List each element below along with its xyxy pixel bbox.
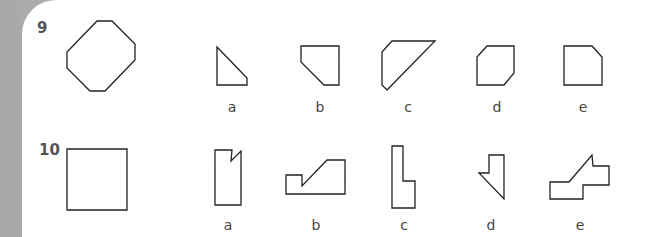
q10-option-b-shape[interactable] [286, 160, 345, 194]
q10-option-a-shape[interactable] [215, 150, 241, 205]
q9-option-d-label[interactable]: d [487, 99, 507, 115]
q9-option-e-shape[interactable] [564, 46, 602, 85]
q10-option-a-label[interactable]: a [218, 217, 238, 233]
q9-option-c-label[interactable]: c [398, 99, 418, 115]
q9-option-a-label[interactable]: a [222, 99, 242, 115]
q10-option-c-shape[interactable] [392, 146, 415, 208]
q9-option-b-shape[interactable] [301, 46, 339, 85]
q9-option-e-label[interactable]: e [573, 99, 593, 115]
q10-option-d-shape[interactable] [479, 155, 504, 199]
q10-option-d-label[interactable]: d [481, 217, 501, 233]
q10-option-e-label[interactable]: e [570, 217, 590, 233]
q9-option-c-shape[interactable] [382, 41, 435, 90]
q10-option-b-label[interactable]: b [306, 217, 326, 233]
figures-canvas [0, 0, 646, 237]
q9-target-octagon [67, 21, 135, 91]
q9-option-d-shape[interactable] [477, 46, 514, 85]
q9-option-b-label[interactable]: b [310, 99, 330, 115]
q10-option-c-label[interactable]: c [394, 217, 414, 233]
q10-target-square [67, 149, 127, 210]
q10-option-e-shape[interactable] [550, 155, 609, 199]
q9-option-a-shape[interactable] [217, 47, 247, 85]
